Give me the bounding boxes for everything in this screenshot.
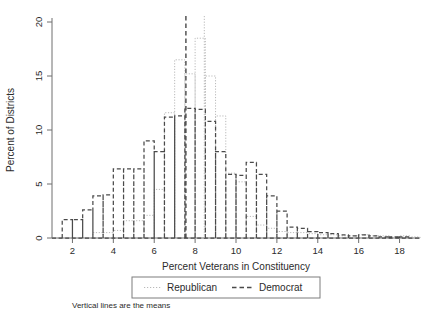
y-tick-label: 0 <box>33 235 44 240</box>
x-tick-label: 14 <box>312 245 323 256</box>
x-tick-label: 18 <box>394 245 405 256</box>
veterans-histogram-figure: Percent of Districts 05101520 2468101214… <box>0 0 432 315</box>
chart-container: Percent of Districts 05101520 2468101214… <box>0 0 432 315</box>
y-axis-title-group: Percent of Districts <box>5 88 16 172</box>
x-tick-label: 12 <box>272 245 283 256</box>
legend: Republican Democrat <box>132 277 320 298</box>
legend-label-democrat: Democrat <box>259 282 303 293</box>
y-tick-label: 10 <box>33 125 44 136</box>
x-tick-label: 2 <box>70 245 75 256</box>
histogram-outline-democrat <box>52 108 420 238</box>
y-tick-label: 5 <box>33 181 44 186</box>
legend-label-republican: Republican <box>167 282 217 293</box>
x-axis-title: Percent Veterans in Constituency <box>162 261 310 272</box>
y-axis-title: Percent of Districts <box>5 88 16 172</box>
y-tick-label: 15 <box>33 71 44 82</box>
y-axis-ticks: 05101520 <box>33 17 53 241</box>
histogram-democrat <box>52 108 420 238</box>
footnote: Vertical lines are the means <box>72 301 170 310</box>
x-tick-label: 16 <box>353 245 364 256</box>
x-tick-label: 4 <box>111 245 116 256</box>
x-tick-label: 6 <box>152 245 157 256</box>
x-tick-label: 10 <box>231 245 242 256</box>
x-tick-label: 8 <box>192 245 197 256</box>
y-tick-label: 20 <box>33 17 44 28</box>
x-axis-ticks: 24681012141618 <box>70 238 405 256</box>
